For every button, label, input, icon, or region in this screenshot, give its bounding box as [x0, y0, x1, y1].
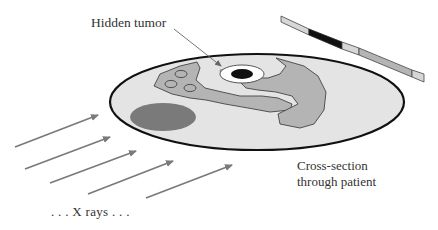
x-rays-label: . . . X rays . . . [51, 204, 130, 220]
x-ray-arrow [88, 161, 173, 194]
patient-cross-section [110, 54, 404, 150]
hidden-tumor-label: Hidden tumor [91, 15, 166, 31]
dark-organ [130, 103, 196, 131]
cross-section-label-line1: Cross-section [297, 158, 368, 174]
x-ray-arrow [25, 137, 110, 169]
x-ray-arrow [146, 165, 232, 198]
tumor [231, 69, 253, 79]
cross-section-label-line2: through patient [297, 174, 376, 190]
x-ray-arrow [15, 115, 98, 147]
ct-scan-diagram [0, 0, 438, 230]
x-ray-arrow [50, 151, 136, 183]
